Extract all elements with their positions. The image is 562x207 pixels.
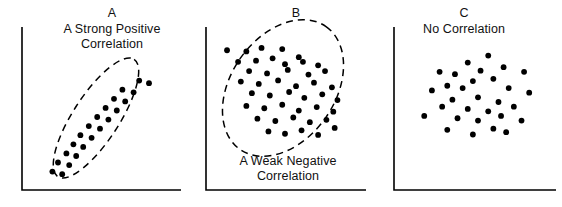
data-point xyxy=(73,153,79,159)
data-point xyxy=(501,64,507,70)
data-point xyxy=(490,76,496,82)
data-point xyxy=(324,117,330,123)
data-point xyxy=(94,114,100,120)
data-point xyxy=(300,59,306,65)
data-point xyxy=(50,169,56,175)
data-point xyxy=(286,89,292,95)
data-point xyxy=(521,69,527,75)
data-point xyxy=(235,59,241,65)
data-point xyxy=(122,99,128,105)
data-point xyxy=(266,129,272,135)
data-point xyxy=(279,102,285,108)
data-point xyxy=(282,61,288,67)
data-point xyxy=(59,171,65,177)
data-point xyxy=(256,81,262,87)
data-point xyxy=(498,113,504,119)
panel-a-caption: A Strong Positive Correlation xyxy=(42,22,182,52)
data-point xyxy=(224,47,230,53)
data-point xyxy=(452,71,458,77)
data-point xyxy=(319,91,325,97)
data-point xyxy=(243,49,249,55)
data-point xyxy=(282,131,288,137)
data-point xyxy=(322,68,328,74)
data-point xyxy=(78,132,84,138)
data-point xyxy=(97,126,103,132)
data-point xyxy=(503,129,509,135)
data-point xyxy=(307,119,313,125)
data-point xyxy=(455,115,461,121)
data-point xyxy=(55,160,61,166)
data-point xyxy=(261,105,267,111)
data-point xyxy=(114,108,120,114)
data-point xyxy=(506,85,512,91)
data-point xyxy=(270,55,276,61)
data-point xyxy=(293,83,299,89)
data-point xyxy=(249,90,255,96)
data-point xyxy=(301,95,307,101)
scatter-panel-b: B A Weak Negative Correlation xyxy=(186,0,376,207)
data-point xyxy=(264,71,270,77)
data-point xyxy=(335,97,341,103)
data-point xyxy=(146,80,152,86)
data-point xyxy=(314,104,320,110)
data-point xyxy=(450,97,456,103)
data-point xyxy=(460,85,466,91)
data-point xyxy=(131,89,137,95)
panel-a-letter: A xyxy=(52,6,172,20)
data-point xyxy=(80,144,86,150)
data-point xyxy=(71,141,77,147)
data-point xyxy=(246,68,252,74)
data-point xyxy=(296,108,302,114)
data-point xyxy=(437,69,443,75)
data-point xyxy=(275,78,281,84)
correlation-figure: A A Strong Positive Correlation B A Weak… xyxy=(0,0,562,207)
data-point xyxy=(465,60,471,66)
data-point xyxy=(238,79,244,85)
data-point xyxy=(120,87,126,93)
data-point xyxy=(103,105,109,111)
data-point xyxy=(439,104,445,110)
panel-b-caption: A Weak Negative Correlation xyxy=(208,154,368,184)
data-point xyxy=(429,88,435,94)
scatter-panel-a: A A Strong Positive Correlation xyxy=(0,0,190,207)
data-point xyxy=(485,108,491,114)
panel-b-points xyxy=(224,45,340,138)
data-point xyxy=(519,118,525,124)
data-point xyxy=(66,162,72,168)
data-point xyxy=(253,58,259,64)
data-point xyxy=(243,103,249,109)
panel-b-letter: B xyxy=(236,6,356,20)
data-point xyxy=(332,125,338,131)
data-point xyxy=(290,115,296,121)
data-point xyxy=(64,151,70,157)
data-point xyxy=(526,90,532,96)
data-point xyxy=(267,93,273,99)
data-point xyxy=(490,126,496,132)
scatter-panel-c: C No Correlation xyxy=(374,0,562,207)
data-point xyxy=(311,80,317,86)
data-point xyxy=(315,132,321,138)
data-point xyxy=(136,78,142,84)
data-point xyxy=(444,127,450,133)
panel-c-axes xyxy=(394,27,556,190)
panel-c-caption: No Correlation xyxy=(390,22,538,37)
data-point xyxy=(255,116,261,122)
data-point xyxy=(478,68,484,74)
data-point xyxy=(470,78,476,84)
data-point xyxy=(475,94,481,100)
data-point xyxy=(279,46,285,52)
data-point xyxy=(496,99,502,105)
data-point xyxy=(285,67,291,73)
data-point xyxy=(111,96,117,102)
data-point xyxy=(259,45,265,51)
data-point xyxy=(306,72,312,78)
data-point xyxy=(296,54,302,60)
data-point xyxy=(475,118,481,124)
panel-c-points xyxy=(421,53,532,138)
data-point xyxy=(444,83,450,89)
data-point xyxy=(485,53,491,59)
data-point xyxy=(421,113,427,119)
data-point xyxy=(299,127,305,133)
panel-c-letter: C xyxy=(404,6,524,20)
data-point xyxy=(470,132,476,138)
